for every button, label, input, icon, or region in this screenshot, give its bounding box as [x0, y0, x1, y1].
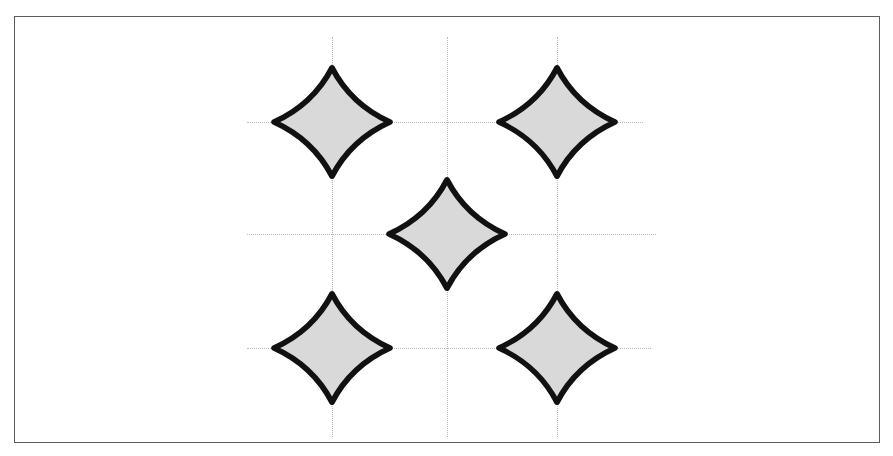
four-pointed-star-icon	[274, 68, 390, 177]
figure-canvas: Quincunx arrangement of five four-pointe…	[0, 0, 893, 456]
bottom-right-star	[494, 289, 620, 407]
four-pointed-star-icon	[389, 180, 505, 289]
top-left-star	[269, 63, 395, 181]
four-pointed-star-icon	[274, 294, 390, 403]
top-right-star	[494, 63, 620, 181]
four-pointed-star-icon	[499, 68, 615, 177]
four-pointed-star-icon	[499, 294, 615, 403]
center-star	[384, 175, 510, 293]
bottom-left-star	[269, 289, 395, 407]
star-marker-layer	[0, 0, 893, 456]
